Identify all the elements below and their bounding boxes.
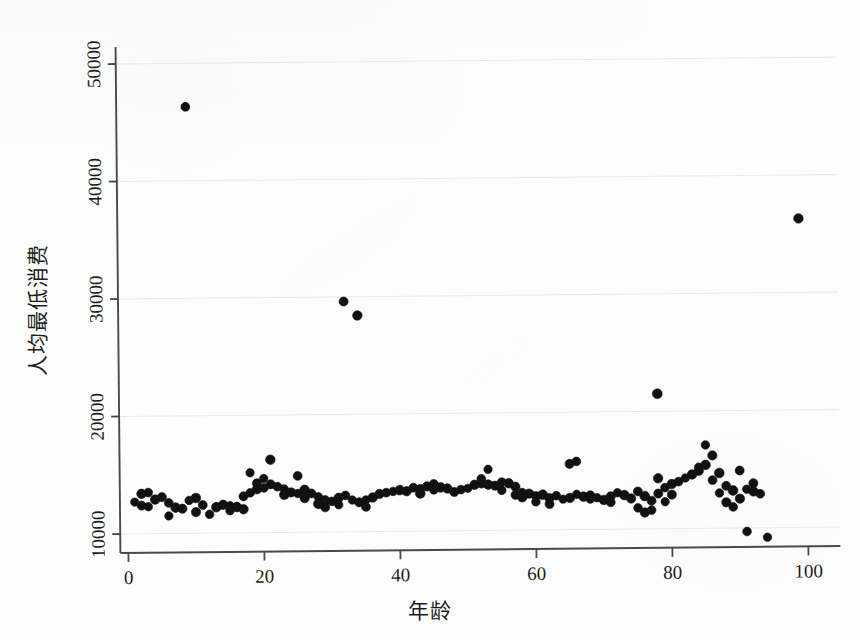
gridline-y-30000 — [118, 292, 838, 299]
data-point — [652, 389, 662, 399]
x-axis-line — [120, 546, 840, 553]
data-point — [735, 494, 745, 504]
data-point — [239, 505, 249, 515]
data-point — [191, 493, 201, 503]
figure-canvas: 1000020000300004000050000020406080100 年龄… — [0, 0, 860, 640]
x-axis-title: 年龄 — [0, 594, 860, 624]
data-point — [661, 497, 670, 506]
data-point — [144, 488, 153, 497]
x-tick-label-20: 20 — [255, 566, 274, 587]
data-point — [708, 451, 717, 460]
data-point — [701, 460, 711, 470]
data-point — [265, 455, 275, 465]
data-point — [626, 494, 635, 503]
data-point — [339, 297, 348, 306]
y-tick-label-10000: 10000 — [87, 510, 108, 558]
data-point — [293, 471, 302, 480]
data-points-group — [127, 96, 807, 547]
gridline-y-50000 — [116, 57, 836, 64]
data-point — [701, 441, 710, 450]
data-point — [572, 457, 581, 466]
data-point — [728, 486, 738, 496]
x-tick-label-80: 80 — [663, 562, 682, 583]
data-point — [756, 489, 765, 498]
x-tick-label-100: 100 — [794, 560, 823, 581]
data-point — [647, 506, 656, 515]
data-point — [181, 102, 190, 111]
data-point — [735, 466, 744, 475]
tick-labels-group: 1000020000300004000050000020406080100 — [83, 34, 823, 589]
y-tick-label-20000: 20000 — [86, 393, 107, 441]
data-point — [763, 533, 772, 542]
data-point — [714, 468, 724, 478]
data-point — [165, 512, 174, 521]
data-point — [606, 498, 615, 507]
data-point — [743, 527, 752, 536]
data-point — [144, 502, 153, 511]
data-point — [532, 497, 541, 506]
gridline-y-20000 — [119, 410, 839, 417]
data-point — [729, 503, 738, 512]
data-point — [647, 496, 656, 505]
data-point — [498, 486, 507, 495]
y-axis-line — [116, 47, 121, 553]
x-tick-label-60: 60 — [527, 563, 546, 584]
data-point — [794, 214, 804, 224]
y-tick-label-40000: 40000 — [84, 158, 105, 206]
data-point — [246, 469, 254, 477]
data-point — [205, 510, 214, 519]
data-point — [191, 507, 200, 516]
data-point — [198, 500, 207, 509]
data-point — [667, 490, 676, 499]
data-point — [653, 474, 663, 484]
data-point — [715, 489, 724, 498]
data-point — [353, 311, 363, 321]
data-point — [749, 479, 758, 488]
y-tick-label-50000: 50000 — [83, 40, 104, 88]
x-tick-label-0: 0 — [124, 567, 134, 588]
x-tick-label-40: 40 — [391, 564, 410, 585]
data-point — [708, 476, 717, 485]
scatter-plot-svg: 1000020000300004000050000020406080100 — [0, 0, 860, 640]
gridline-y-40000 — [117, 175, 837, 182]
gridlines-group — [116, 57, 840, 534]
gridline-y-10000 — [120, 527, 840, 534]
y-tick-label-30000: 30000 — [85, 275, 106, 323]
data-point — [484, 465, 493, 474]
data-point — [545, 499, 554, 508]
data-point — [178, 504, 187, 513]
y-axis-title: 人均最低消费 — [21, 210, 51, 410]
